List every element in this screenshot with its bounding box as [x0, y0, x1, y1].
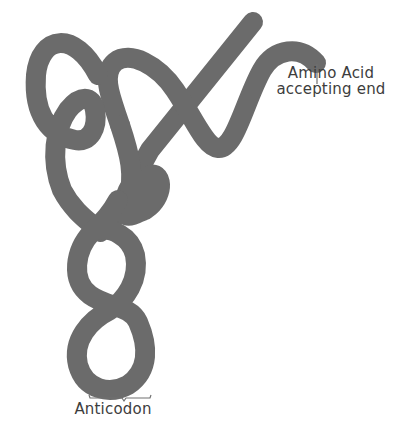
amino-acid-label-line2: accepting end	[268, 81, 394, 97]
amino-acid-label: Amino Acid accepting end	[268, 65, 394, 97]
anticodon-label: Anticodon	[68, 401, 158, 417]
amino-acid-label-line1: Amino Acid	[268, 65, 394, 81]
